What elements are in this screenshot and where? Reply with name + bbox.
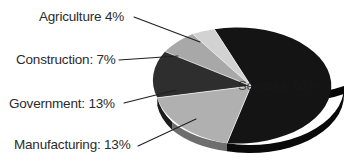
- leader-line-agriculture: [134, 17, 200, 42]
- slice-label-manufacturing: Manufacturing: 13%: [14, 138, 130, 152]
- slice-label-agriculture: Agriculture 4%: [39, 10, 124, 24]
- slice-label-government: Government: 13%: [9, 97, 115, 111]
- slice-label-services: Services: 63%: [238, 79, 319, 92]
- slice-label-construction: Construction: 7%: [16, 53, 116, 67]
- pie-chart: Agriculture 4% Construction: 7% Governme…: [0, 0, 355, 167]
